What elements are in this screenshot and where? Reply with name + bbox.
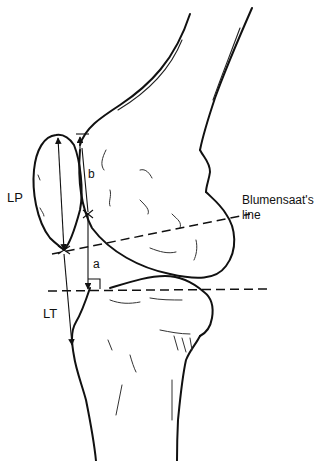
tibia	[72, 276, 213, 461]
label-blumensaat-1: Blumensaat's	[242, 193, 314, 207]
femur	[79, 8, 252, 278]
lp-measure-line	[58, 138, 64, 250]
label-a: a	[93, 257, 100, 271]
patella	[34, 135, 82, 250]
label-lt: LT	[43, 306, 57, 321]
label-b: b	[88, 167, 95, 181]
tibial-plateau-line	[48, 289, 270, 291]
lt-measure-line	[64, 254, 72, 345]
label-blumensaat-2: line	[242, 208, 261, 222]
label-lp: LP	[7, 190, 23, 205]
knee-diagram: LP LT a b Blumensaat's line	[0, 0, 324, 461]
